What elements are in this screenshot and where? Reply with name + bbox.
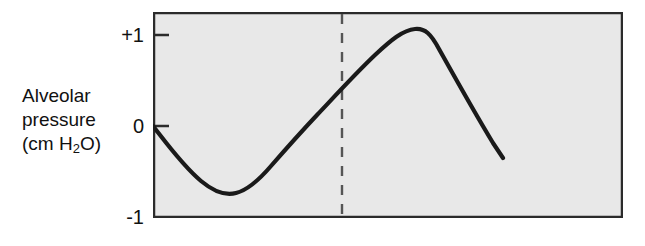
- y-tick-label-zero: 0: [92, 116, 144, 136]
- alveolar-pressure-figure: Alveolar pressure (cm H2O) +1 0 -1: [0, 0, 645, 246]
- y-tick-label-minus-1: -1: [92, 207, 144, 227]
- y-axis-title-units-suffix: O): [80, 133, 101, 154]
- plot-area: [153, 12, 623, 218]
- alveolar-pressure-curve: [153, 29, 503, 194]
- plot-svg: [153, 12, 623, 218]
- y-axis-title-line-3: (cm H2O): [22, 132, 140, 161]
- y-axis-title-line-1: Alveolar: [22, 84, 140, 108]
- y-tick-label-plus-1: +1: [92, 25, 144, 45]
- y-axis-title-units-prefix: (cm H: [22, 133, 73, 154]
- y-axis-title-subscript: 2: [73, 141, 80, 156]
